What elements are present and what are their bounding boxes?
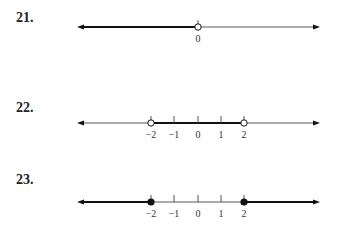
tick-label: 2 (242, 208, 247, 219)
closed-dot-icon (240, 198, 247, 205)
tick-label: 0 (196, 208, 201, 219)
closed-dot-icon (147, 198, 154, 205)
tick-label: −1 (169, 208, 180, 219)
tick-label: 1 (219, 208, 224, 219)
number-line-23: −2−1012 (0, 0, 344, 230)
tick-label: −2 (146, 208, 157, 219)
